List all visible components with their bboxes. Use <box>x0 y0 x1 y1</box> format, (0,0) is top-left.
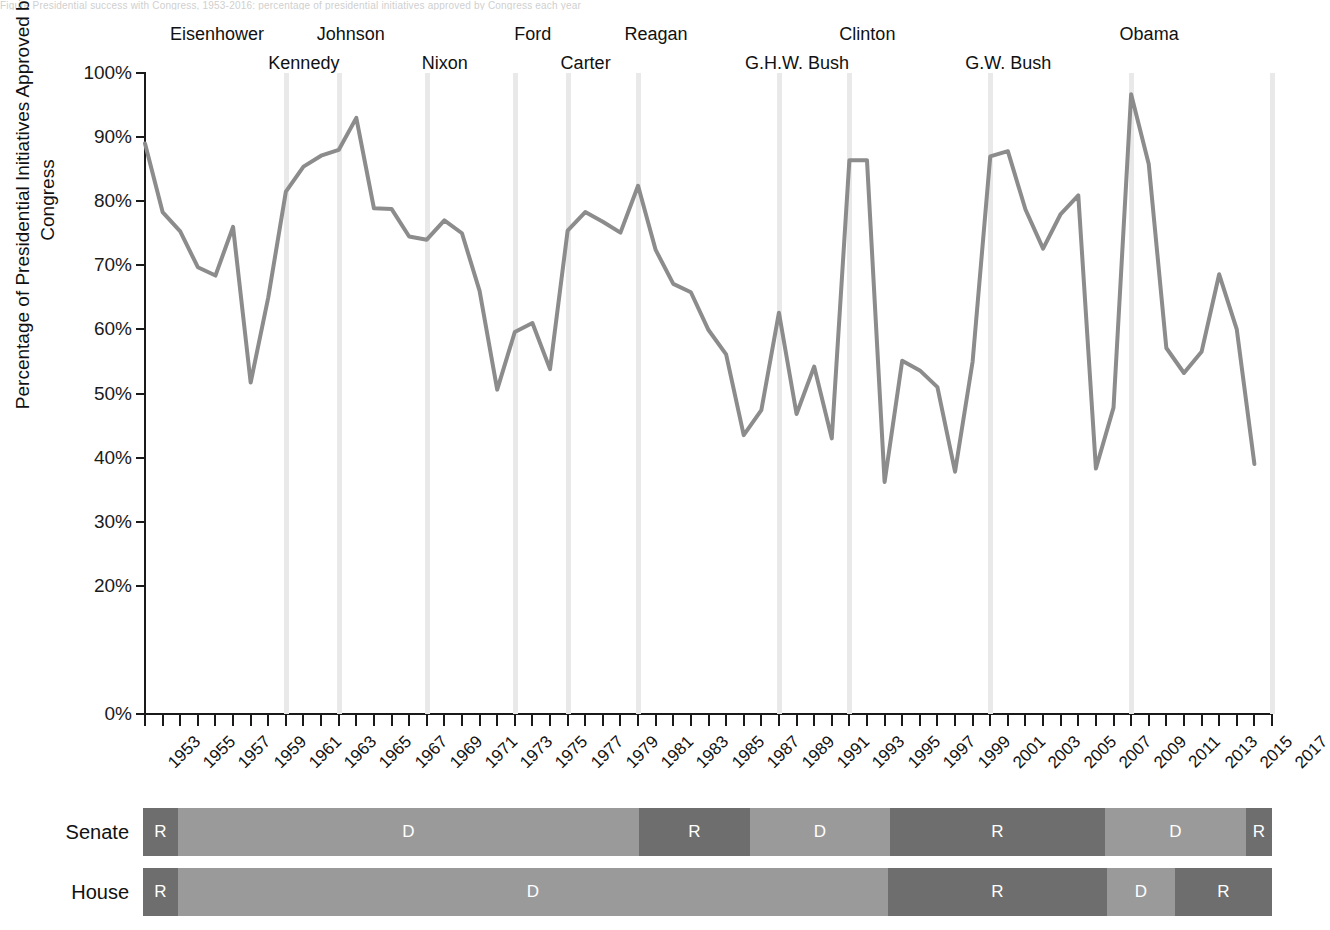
x-tick <box>531 715 533 726</box>
x-tick <box>972 715 974 726</box>
x-tick <box>514 715 516 726</box>
y-tick-label: 60% <box>94 318 132 340</box>
x-tick-label: 2015 <box>1256 732 1297 773</box>
x-tick-label: 1987 <box>763 732 804 773</box>
x-tick-label: 1983 <box>692 732 733 773</box>
x-tick <box>936 715 938 726</box>
congress-row-label: Senate <box>66 821 143 844</box>
president-label-reagan: Reagan <box>625 24 688 45</box>
congress-row-house: HouseRDRDR <box>143 868 1272 916</box>
x-tick <box>760 715 762 726</box>
x-tick <box>619 715 621 726</box>
x-tick-label: 1957 <box>235 732 276 773</box>
x-tick-label: 1975 <box>551 732 592 773</box>
x-tick <box>1130 715 1132 726</box>
x-tick <box>884 715 886 726</box>
x-tick <box>637 715 639 726</box>
x-tick <box>179 715 181 726</box>
x-tick-label: 1995 <box>904 732 945 773</box>
x-tick <box>1236 715 1238 726</box>
x-tick <box>1271 715 1273 726</box>
plot-area <box>145 73 1272 714</box>
x-tick <box>743 715 745 726</box>
y-tick-label: 0% <box>105 703 132 725</box>
x-tick <box>214 715 216 726</box>
y-tick-label: 90% <box>94 126 132 148</box>
x-tick <box>567 715 569 726</box>
x-tick <box>355 715 357 726</box>
x-tick <box>408 715 410 726</box>
x-tick <box>1148 715 1150 726</box>
x-tick-label: 2003 <box>1045 732 1086 773</box>
x-tick <box>848 715 850 726</box>
x-tick <box>479 715 481 726</box>
x-tick-label: 2011 <box>1185 732 1225 772</box>
x-tick <box>162 715 164 726</box>
x-tick-label: 2001 <box>1009 732 1050 773</box>
x-tick <box>831 715 833 726</box>
x-tick-label: 1979 <box>622 732 663 773</box>
x-tick-label: 1955 <box>199 732 240 773</box>
congress-segment-republican: R <box>1246 808 1272 856</box>
x-tick <box>320 715 322 726</box>
congress-segment-republican: R <box>888 868 1107 916</box>
cut-off-header-text: Figure Presidential success with Congres… <box>0 0 1314 10</box>
x-tick <box>391 715 393 726</box>
congress-segment-republican: R <box>1175 868 1272 916</box>
x-tick-label: 1997 <box>939 732 980 773</box>
x-tick <box>1165 715 1167 726</box>
congress-segment-democrat: D <box>1107 868 1175 916</box>
x-tick-label: 1963 <box>340 732 381 773</box>
x-tick <box>584 715 586 726</box>
congress-row-senate: SenateRDRDRDR <box>143 808 1272 856</box>
x-tick <box>302 715 304 726</box>
x-tick <box>373 715 375 726</box>
x-tick <box>1095 715 1097 726</box>
x-tick <box>672 715 674 726</box>
x-tick <box>267 715 269 726</box>
president-label-johnson: Johnson <box>317 24 385 45</box>
x-tick <box>813 715 815 726</box>
x-tick <box>954 715 956 726</box>
congress-segment-democrat: D <box>178 868 888 916</box>
x-tick-label: 1985 <box>728 732 769 773</box>
x-tick-label: 2007 <box>1115 732 1156 773</box>
x-tick <box>144 715 146 726</box>
y-tick-label: 20% <box>94 575 132 597</box>
congress-segment-democrat: D <box>178 808 639 856</box>
president-label-g-h-w-bush: G.H.W. Bush <box>745 53 849 74</box>
x-tick-label: 1981 <box>657 732 698 773</box>
x-tick-label: 1999 <box>974 732 1015 773</box>
x-tick <box>232 715 234 726</box>
x-tick <box>1060 715 1062 726</box>
x-tick <box>708 715 710 726</box>
president-label-carter: Carter <box>561 53 611 74</box>
x-tick <box>778 715 780 726</box>
x-tick <box>1201 715 1203 726</box>
y-tick-label: 80% <box>94 190 132 212</box>
congress-segment-republican: R <box>890 808 1105 856</box>
x-tick <box>690 715 692 726</box>
x-tick-label: 2017 <box>1291 732 1330 773</box>
y-tick-label: 70% <box>94 254 132 276</box>
x-tick-label: 1959 <box>270 732 311 773</box>
y-tick-label: 30% <box>94 511 132 533</box>
x-tick <box>796 715 798 726</box>
x-tick <box>602 715 604 726</box>
congress-segment-democrat: D <box>750 808 890 856</box>
x-tick <box>443 715 445 726</box>
x-tick-label: 1971 <box>481 732 522 773</box>
x-tick <box>1113 715 1115 726</box>
y-tick-label: 50% <box>94 383 132 405</box>
y-tick-label: 100% <box>83 62 132 84</box>
x-tick <box>250 715 252 726</box>
x-tick <box>1077 715 1079 726</box>
x-tick <box>725 715 727 726</box>
congress-segment-democrat: D <box>1105 808 1246 856</box>
congress-segment-republican: R <box>639 808 750 856</box>
x-tick <box>1042 715 1044 726</box>
x-tick <box>197 715 199 726</box>
x-tick <box>1183 715 1185 726</box>
x-tick-label: 2013 <box>1221 732 1262 773</box>
